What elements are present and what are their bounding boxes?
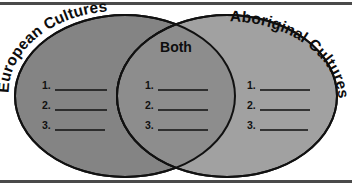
center-item-number: 3.	[145, 119, 154, 131]
right-item-number: 3.	[247, 119, 256, 131]
right-item-number: 1.	[247, 79, 256, 91]
venn-diagram-graphic: European Cultures Aboriginal Cultures Bo…	[0, 0, 352, 191]
center-item-number: 2.	[145, 99, 154, 111]
center-overlap-label: Both	[160, 39, 192, 55]
left-item-number: 2.	[42, 99, 51, 111]
right-item-number: 2.	[247, 99, 256, 111]
venn-diagram-worksheet: European Cultures Aboriginal Cultures Bo…	[0, 0, 352, 191]
center-item-number: 1.	[145, 79, 154, 91]
left-item-number: 3.	[42, 119, 51, 131]
left-item-number: 1.	[42, 79, 51, 91]
bottom-divider-rule	[0, 180, 352, 183]
